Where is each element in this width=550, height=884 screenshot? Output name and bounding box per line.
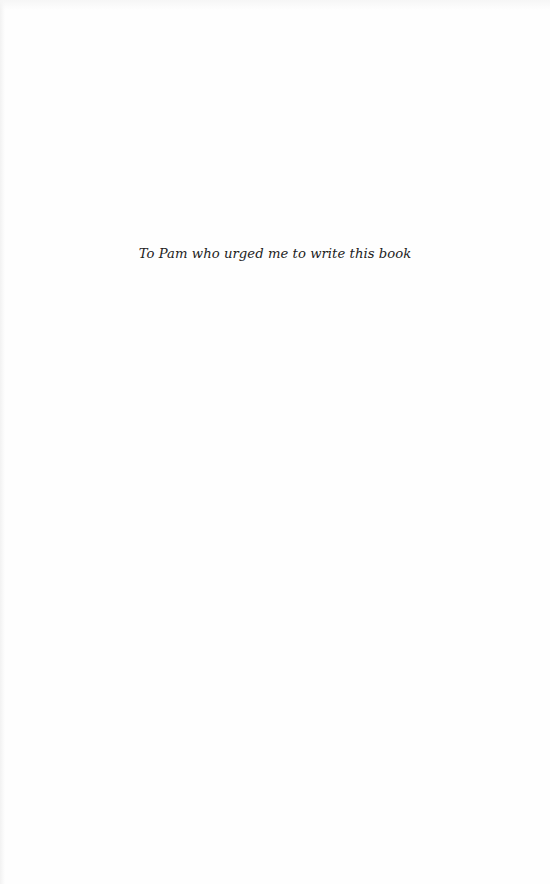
page-edge-shadow bbox=[0, 0, 5, 884]
page-top-shadow bbox=[0, 0, 550, 10]
dedication-text: To Pam who urged me to write this book bbox=[0, 242, 550, 266]
book-page: To Pam who urged me to write this book bbox=[0, 0, 550, 884]
